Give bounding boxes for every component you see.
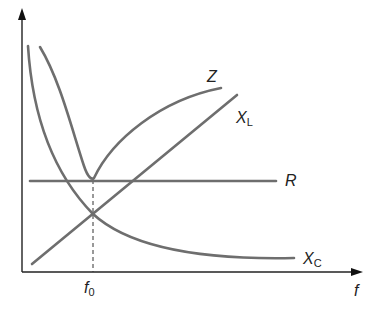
curve-z [40,47,221,179]
label-x-axis: f [354,282,360,299]
label-r: R [285,172,297,189]
label-xc: XC [302,250,322,269]
impedance-diagram: Z XL R XC f0 f [0,0,378,319]
x-axis-arrow-icon [351,268,363,276]
label-z: Z [206,68,218,85]
y-axis-arrow-icon [18,8,26,20]
label-xl: XL [235,109,253,128]
curve-xc [28,46,294,258]
label-f0: f0 [84,279,95,298]
